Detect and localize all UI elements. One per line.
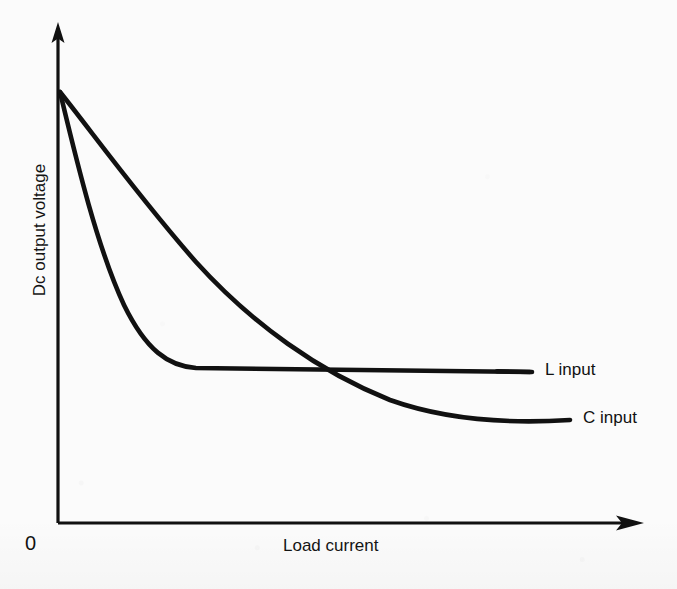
origin-label: 0 xyxy=(25,532,36,555)
x-axis xyxy=(58,516,644,531)
y-axis-label: Dc output voltage xyxy=(30,130,50,330)
series-label-c-input: C input xyxy=(583,408,637,428)
series-label-l-input: L input xyxy=(545,360,595,380)
x-axis-label: Load current xyxy=(283,536,378,556)
series-line-l-input xyxy=(60,92,530,372)
series-leader-l-input xyxy=(497,371,532,372)
chart-canvas xyxy=(0,0,677,589)
figure-container: with L and C filters. Dc output voltage … xyxy=(0,0,677,589)
